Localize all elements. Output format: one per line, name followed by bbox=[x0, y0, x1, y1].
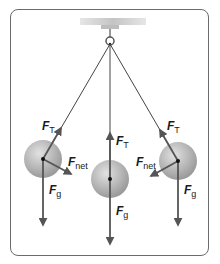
ceiling-mount bbox=[101, 25, 119, 29]
ceiling-bar bbox=[80, 18, 146, 25]
pendulum-diagram: FT Fnet Fg FT Fg FT Fnet Fg bbox=[0, 0, 220, 264]
label-tension-left: FT bbox=[42, 119, 55, 135]
label-gravity-left: Fg bbox=[49, 183, 61, 199]
label-net-right: Fnet bbox=[136, 155, 156, 171]
label-gravity-right: Fg bbox=[184, 183, 196, 199]
label-gravity-center: Fg bbox=[116, 204, 128, 220]
label-net-left: Fnet bbox=[68, 155, 88, 171]
label-tension-right: FT bbox=[167, 119, 180, 135]
label-tension-center: FT bbox=[116, 134, 129, 150]
